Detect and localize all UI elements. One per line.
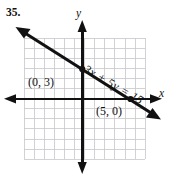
y-axis [78, 20, 87, 174]
y-axis-arrow-down [78, 162, 87, 174]
y-axis-label: y [76, 8, 81, 20]
x-axis-label: x [159, 88, 164, 100]
y-intercept-point-label: (0, 3) [28, 76, 54, 88]
x-axis-arrow-left [4, 94, 16, 103]
x-intercept-point-label: (5, 0) [96, 105, 122, 117]
y-axis-arrow-up [78, 20, 87, 32]
coordinate-plane-graph [0, 0, 175, 176]
graph-figure: 35. [0, 0, 175, 176]
